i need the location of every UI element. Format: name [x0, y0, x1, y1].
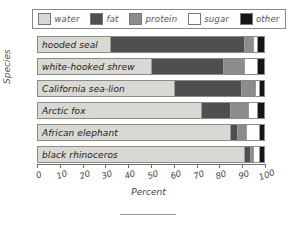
- bar-segment-fat[interactable]: [110, 37, 243, 52]
- x-tick-90: [242, 164, 243, 168]
- x-tick-50: [151, 164, 152, 168]
- x-tick-label-20: 20: [78, 168, 92, 181]
- bar-segment-sugar[interactable]: [246, 125, 260, 140]
- x-tick-label-30: 30: [100, 168, 114, 181]
- bar-row[interactable]: hooded seal: [37, 36, 265, 53]
- bar-segment-protein[interactable]: [244, 37, 253, 52]
- bar-segment-sugar[interactable]: [248, 103, 257, 118]
- bar-segment-protein[interactable]: [241, 81, 255, 96]
- bar-row[interactable]: black rhinoceros: [37, 146, 265, 163]
- x-tick-60: [174, 164, 175, 168]
- legend-item-protein[interactable]: protein: [129, 13, 177, 25]
- legend-label-sugar: sugar: [204, 14, 229, 24]
- x-tick-label-40: 40: [123, 168, 137, 181]
- x-tick-20: [83, 164, 84, 168]
- bar-segment-other[interactable]: [259, 81, 264, 96]
- chart-legend: waterfatproteinsugarother: [32, 9, 286, 29]
- x-tick-label-70: 70: [192, 168, 206, 181]
- plot-area: hooded sealwhite-hooked shrewCalifornia …: [37, 36, 265, 164]
- x-tick-100: [265, 164, 266, 168]
- x-tick-30: [105, 164, 106, 168]
- legend-swatch-water: [38, 13, 51, 25]
- bar-segment-fat[interactable]: [151, 59, 223, 74]
- stacked-bar-chart: waterfatproteinsugarother hooded sealwhi…: [0, 0, 297, 226]
- bar-segment-fat[interactable]: [230, 125, 237, 140]
- bar-segment-water[interactable]: [38, 59, 151, 74]
- bar-segment-other[interactable]: [259, 125, 264, 140]
- bar-segment-other[interactable]: [257, 59, 264, 74]
- bar-segment-fat[interactable]: [201, 103, 230, 118]
- bar-segment-protein[interactable]: [230, 103, 248, 118]
- x-tick-label-50: 50: [146, 168, 160, 181]
- x-tick-0: [37, 164, 38, 168]
- y-axis-title: Species: [2, 49, 12, 84]
- bar-row[interactable]: African elephant: [37, 124, 265, 141]
- legend-label-fat: fat: [106, 14, 118, 24]
- bar-segment-water[interactable]: [38, 147, 244, 162]
- x-tick-70: [197, 164, 198, 168]
- bar-row[interactable]: white-hooked shrew: [37, 58, 265, 75]
- x-tick-label-90: 90: [237, 168, 251, 181]
- bar-segment-other[interactable]: [259, 147, 264, 162]
- x-tick-label-80: 80: [214, 168, 228, 181]
- legend-item-other[interactable]: other: [240, 13, 280, 25]
- legend-item-sugar[interactable]: sugar: [188, 13, 229, 25]
- legend-swatch-sugar: [188, 13, 201, 25]
- bar-segment-protein[interactable]: [223, 59, 243, 74]
- bar-segment-protein[interactable]: [237, 125, 246, 140]
- bar-row[interactable]: California sea-lion: [37, 80, 265, 97]
- legend-swatch-protein: [129, 13, 142, 25]
- x-axis-title: Percent: [0, 187, 297, 197]
- bar-segment-water[interactable]: [38, 81, 174, 96]
- legend-item-water[interactable]: water: [38, 13, 79, 25]
- x-tick-80: [219, 164, 220, 168]
- legend-label-other: other: [256, 14, 280, 24]
- bar-segment-water[interactable]: [38, 125, 230, 140]
- bar-segment-fat[interactable]: [174, 81, 242, 96]
- bar-row[interactable]: Arctic fox: [37, 102, 265, 119]
- bar-segment-other[interactable]: [257, 103, 264, 118]
- legend-label-water: water: [54, 14, 79, 24]
- x-tick-label-0: 0: [34, 169, 43, 180]
- legend-label-protein: protein: [145, 14, 177, 24]
- footer-divider: [120, 214, 176, 215]
- x-tick-label-10: 10: [55, 168, 69, 181]
- bar-segment-fat[interactable]: [244, 147, 251, 162]
- x-tick-label-100: 100: [257, 167, 276, 182]
- legend-swatch-other: [240, 13, 253, 25]
- legend-item-fat[interactable]: fat: [90, 13, 118, 25]
- x-tick-10: [60, 164, 61, 168]
- bar-segment-sugar[interactable]: [253, 147, 260, 162]
- bar-segment-water[interactable]: [38, 37, 110, 52]
- x-tick-40: [128, 164, 129, 168]
- bar-segment-sugar[interactable]: [244, 59, 258, 74]
- bar-segment-water[interactable]: [38, 103, 201, 118]
- x-tick-label-60: 60: [169, 168, 183, 181]
- legend-swatch-fat: [90, 13, 103, 25]
- bar-segment-other[interactable]: [257, 37, 264, 52]
